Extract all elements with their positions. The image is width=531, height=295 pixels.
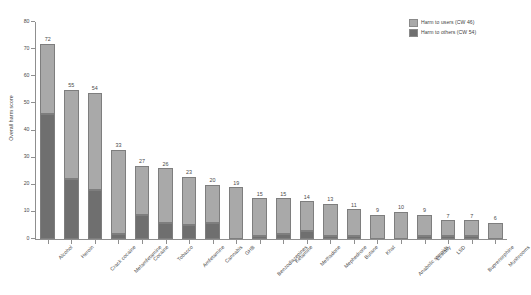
x-tick-label: Amfetamine (201, 244, 225, 268)
y-axis-title: Overall harm score (8, 95, 14, 141)
bar-ghb: 19 (229, 187, 244, 239)
y-tick: 10 (31, 211, 35, 212)
y-tick: 40 (31, 130, 35, 131)
bar-mephedrone: 13 (323, 204, 338, 239)
y-tick-label: 80 (24, 18, 30, 24)
bar-khat: 9 (370, 215, 385, 239)
bar-value-label: 10 (398, 204, 404, 210)
bar-value-label: 27 (139, 158, 145, 164)
bar-segment-harm-to-others (417, 236, 432, 239)
bar-ecstasy: 9 (417, 215, 432, 239)
bar-segment-harm-to-others (40, 114, 55, 239)
x-tick-label: Methadone (319, 244, 342, 267)
bar-value-label: 11 (351, 202, 357, 208)
x-tick-label: Cannabis (223, 244, 243, 264)
x-axis-line (35, 239, 507, 240)
bar-value-label: 9 (376, 207, 379, 213)
y-tick-label: 70 (24, 45, 30, 51)
bar-buprenorphine: 7 (464, 220, 479, 239)
bar-value-label: 19 (233, 180, 239, 186)
y-tick-label: 40 (24, 126, 30, 132)
y-tick-label: 30 (24, 153, 30, 159)
y-tick-label: 50 (24, 99, 30, 105)
x-tick-label: GHB (244, 244, 256, 256)
bar-value-label: 14 (304, 194, 310, 200)
bar-value-label: 33 (115, 142, 121, 148)
bar-benzodiazepines: 15 (252, 198, 267, 239)
x-axis-labels: AlcoholHeroinCrack cocaineMetamfetamineC… (35, 244, 510, 294)
bar-segment-harm-to-users (135, 166, 150, 215)
bar-segment-harm-to-others (64, 179, 79, 239)
bar-segment-harm-to-users (40, 44, 55, 115)
bar-segment-harm-to-others (441, 236, 456, 239)
bar-segment-harm-to-others (111, 234, 126, 239)
bar-segment-harm-to-users (300, 201, 315, 231)
bar-segment-harm-to-others (464, 236, 479, 239)
bar-value-label: 20 (210, 177, 216, 183)
y-tick: 30 (31, 157, 35, 158)
bar-segment-harm-to-others (158, 223, 173, 239)
x-tick-label: Tobacco (175, 244, 193, 262)
x-tick-label: Crack cocaine (109, 244, 137, 272)
bar-value-label: 23 (186, 169, 192, 175)
bar-butane: 11 (347, 209, 362, 239)
x-tick-label: LSD (455, 244, 466, 255)
bar-segment-harm-to-users (347, 209, 362, 236)
bar-segment-harm-to-users (488, 223, 503, 239)
y-tick-label: 0 (27, 235, 30, 241)
y-tick: 0 (31, 238, 35, 239)
bar-segment-harm-to-users (252, 198, 267, 236)
bar-tobacco: 26 (158, 168, 173, 239)
y-tick-label: 20 (24, 180, 30, 186)
bar-heroin: 55 (64, 90, 79, 239)
bar-segment-harm-to-others (182, 225, 197, 239)
bar-segment-harm-to-users (229, 187, 244, 239)
bar-lsd: 7 (441, 220, 456, 239)
bar-segment-harm-to-users (205, 185, 220, 223)
x-tick-label: Heroin (80, 244, 95, 259)
x-tick-label: Khat (385, 244, 397, 256)
bar-value-label: 13 (327, 196, 333, 202)
bar-segment-harm-to-users (464, 220, 479, 236)
y-tick-label: 10 (24, 207, 30, 213)
bar-segment-harm-to-others (88, 190, 103, 239)
y-tick: 50 (31, 102, 35, 103)
bar-segment-harm-to-users (158, 168, 173, 222)
bar-segment-harm-to-others (135, 215, 150, 239)
bar-segment-harm-to-users (182, 177, 197, 226)
bar-segment-harm-to-users (111, 150, 126, 234)
bar-value-label: 15 (280, 191, 286, 197)
bar-value-label: 9 (423, 207, 426, 213)
bar-segment-harm-to-others (300, 231, 315, 239)
y-tick: 60 (31, 75, 35, 76)
y-tick-label: 60 (24, 72, 30, 78)
bar-segment-harm-to-users (370, 215, 385, 239)
bar-segment-harm-to-users (276, 198, 291, 233)
bar-segment-harm-to-users (417, 215, 432, 237)
bar-segment-harm-to-users (88, 93, 103, 191)
bar-metamfetamine: 33 (111, 150, 126, 240)
bar-methadone: 14 (300, 201, 315, 239)
bar-alcohol: 72 (40, 44, 55, 239)
bar-value-label: 55 (68, 82, 74, 88)
bar-segment-harm-to-users (394, 212, 409, 239)
bar-ketamine: 15 (276, 198, 291, 239)
bar-mushrooms: 6 (488, 223, 503, 239)
bar-anabolic-steroids: 10 (394, 212, 409, 239)
bar-cannabis: 20 (205, 185, 220, 239)
bar-segment-harm-to-users (323, 204, 338, 237)
plot-area: 01020304050607080 7255543327262320191515… (35, 22, 510, 240)
y-tick: 80 (31, 21, 35, 22)
bar-value-label: 54 (92, 85, 98, 91)
bar-value-label: 15 (257, 191, 263, 197)
bar-value-label: 7 (447, 213, 450, 219)
x-tick-label: Alcohol (57, 244, 74, 261)
bar-value-label: 6 (494, 215, 497, 221)
bar-segment-harm-to-others (205, 223, 220, 239)
bar-segment-harm-to-others (347, 236, 362, 239)
bar-segment-harm-to-others (276, 234, 291, 239)
bar-value-label: 72 (45, 36, 51, 42)
y-tick: 70 (31, 48, 35, 49)
y-tick: 20 (31, 184, 35, 185)
bar-series-container: 72555433272623201915151413119109776 (36, 22, 507, 239)
